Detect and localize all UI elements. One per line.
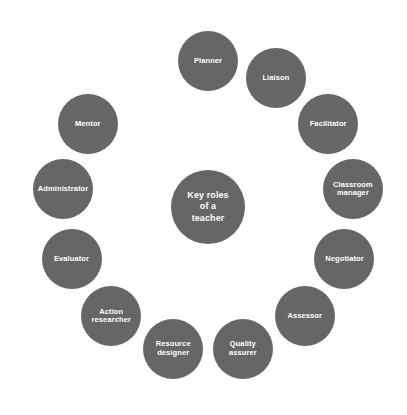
center-node[interactable]: Key roles of a teacher [171, 170, 245, 244]
role-node-evaluator[interactable]: Evaluator [42, 229, 102, 289]
role-node-label: Evaluator [54, 255, 89, 263]
role-node-quality-assurer[interactable]: Quality assurer [213, 319, 273, 379]
role-node-negotiator[interactable]: Negotiator [314, 229, 374, 289]
role-node-planner[interactable]: Planner [178, 31, 238, 91]
role-node-label: Classroom manager [333, 181, 373, 198]
role-node-label: Administrator [38, 185, 88, 193]
role-node-label: Facilitator [310, 120, 347, 128]
role-node-facilitator[interactable]: Facilitator [298, 94, 358, 154]
role-node-assessor[interactable]: Assessor [275, 286, 335, 346]
center-node-label: Key roles of a teacher [187, 190, 228, 224]
role-node-mentor[interactable]: Mentor [58, 94, 118, 154]
role-node-label: Negotiator [325, 255, 364, 263]
role-node-label: Action researcher [92, 308, 131, 325]
role-node-label: Quality assurer [229, 340, 257, 357]
diagram-canvas: Key roles of a teacher PlannerLiaisonFac… [0, 0, 407, 415]
role-node-label: Resource designer [156, 340, 191, 357]
role-node-label: Mentor [75, 120, 101, 128]
role-node-label: Liaison [262, 74, 289, 82]
role-node-liaison[interactable]: Liaison [246, 48, 306, 108]
role-node-classroom-manager[interactable]: Classroom manager [323, 159, 383, 219]
role-node-label: Planner [194, 57, 222, 65]
role-node-resource-designer[interactable]: Resource designer [143, 319, 203, 379]
role-node-label: Assessor [287, 312, 322, 320]
